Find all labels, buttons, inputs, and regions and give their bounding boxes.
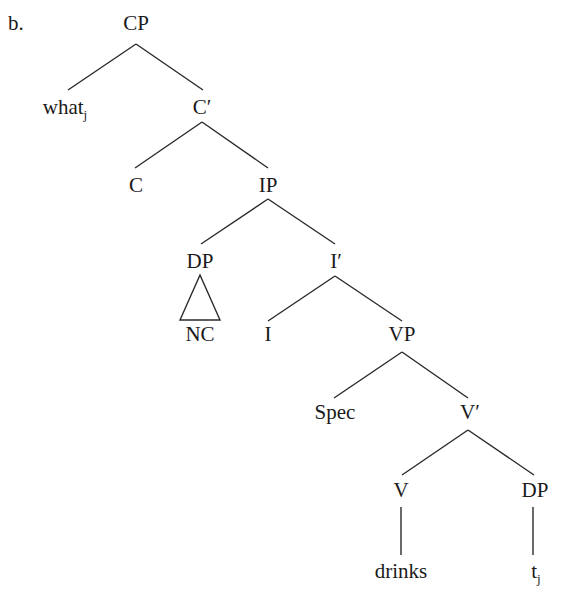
triangle-icon [180, 275, 220, 320]
node-dp-object: DP [522, 478, 549, 502]
branch-cp-what [68, 44, 136, 90]
node-i: I [265, 322, 272, 346]
syntax-tree: b. CP whatj C′ C IP DP I′ NC I VP Spec V… [0, 0, 567, 602]
branch-vbar-dp [468, 430, 534, 475]
branch-ibar-vp [335, 276, 402, 321]
branch-cbar-c [135, 122, 202, 168]
node-v: V [393, 478, 408, 502]
node-trace: tj [531, 559, 540, 586]
branch-vp-vbar [402, 352, 468, 398]
node-ip: IP [259, 173, 278, 197]
node-i-bar: I′ [330, 249, 342, 273]
example-label: b. [8, 11, 24, 35]
node-cp: CP [123, 11, 149, 35]
node-drinks: drinks [375, 559, 428, 583]
node-c: C [129, 173, 143, 197]
branch-ibar-i [268, 276, 335, 321]
branch-ip-ibar [268, 199, 335, 244]
branch-ip-dp [201, 199, 268, 244]
branch-cp-cbar [136, 44, 203, 90]
node-v-bar: V′ [460, 400, 480, 424]
node-what: whatj [43, 95, 87, 122]
node-spec: Spec [315, 400, 356, 424]
node-nc: NC [185, 322, 214, 346]
branch-vp-spec [334, 352, 402, 398]
node-vp: VP [389, 322, 416, 346]
node-dp-subject: DP [187, 249, 214, 273]
node-c-bar: C′ [193, 95, 212, 119]
branch-cbar-ip [202, 122, 268, 168]
branch-vbar-v [402, 430, 468, 475]
